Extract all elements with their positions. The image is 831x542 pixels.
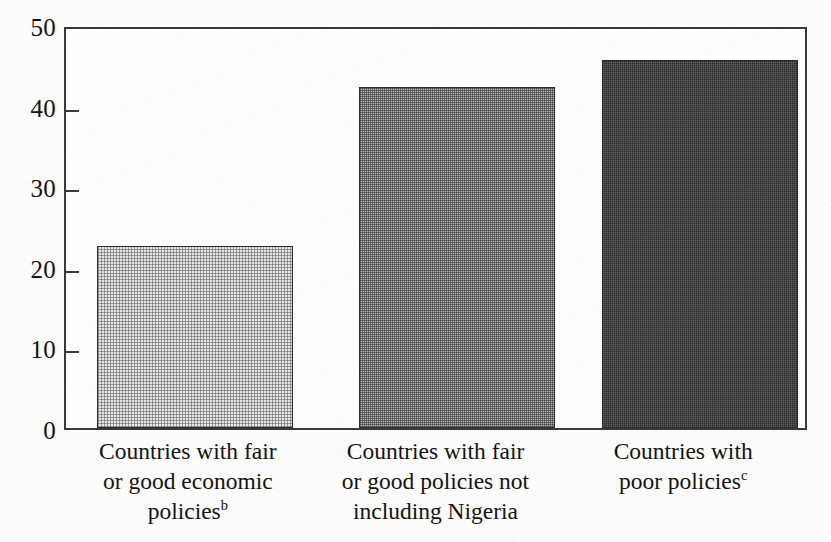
x-axis-category-label-line: Countries with fair [312, 436, 560, 466]
x-axis-category-label: Countries with fairor good economicpolic… [64, 436, 312, 526]
footnote-marker: c [741, 467, 747, 483]
y-axis-tick-label: 10 [8, 337, 56, 362]
y-axis-tick-label: 50 [8, 15, 56, 40]
y-axis-tick-label: 30 [8, 176, 56, 201]
x-axis-category-label-line: policiesb [64, 496, 312, 526]
x-axis-category-label-line: or good economic [64, 466, 312, 496]
bar-chart-figure: 01020304050 Countries with fairor good e… [0, 0, 831, 542]
y-axis-tick-mark [66, 271, 79, 273]
x-axis-category-label: Countries withpoor policiesc [559, 436, 807, 496]
x-axis: Countries with fairor good economicpolic… [64, 436, 807, 542]
footnote-marker: b [221, 497, 228, 513]
bar [97, 246, 293, 428]
y-axis-tick-mark [66, 190, 79, 192]
y-axis-tick-label: 0 [8, 418, 56, 443]
y-axis-tick-label: 40 [8, 95, 56, 120]
y-axis-tick-mark [66, 110, 79, 112]
x-axis-category-label: Countries with fairor good policies noti… [312, 436, 560, 526]
plot-area [64, 27, 807, 430]
x-axis-category-label-line: Countries with fair [64, 436, 312, 466]
bar [359, 87, 555, 428]
x-axis-category-label-line: poor policiesc [559, 466, 807, 496]
bar [602, 60, 798, 428]
y-axis-tick-mark [66, 351, 79, 353]
x-axis-category-label-line: or good policies not [312, 466, 560, 496]
y-axis-tick-label: 20 [8, 256, 56, 281]
x-axis-category-label-line: including Nigeria [312, 496, 560, 526]
y-axis: 01020304050 [4, 0, 56, 542]
x-axis-category-label-line: Countries with [559, 436, 807, 466]
